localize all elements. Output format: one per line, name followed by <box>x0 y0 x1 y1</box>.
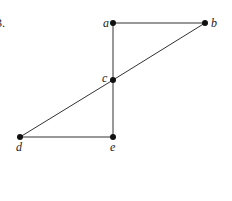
node-a <box>110 20 116 26</box>
node-label-b: b <box>211 16 217 30</box>
problem-number: 3. <box>0 16 5 30</box>
edge-b-c <box>113 23 205 80</box>
node-label-d: d <box>16 140 23 154</box>
node-label-a: a <box>103 16 109 30</box>
node-label-e: e <box>110 140 116 154</box>
node-label-c: c <box>102 71 108 85</box>
edge-c-d <box>20 80 113 137</box>
node-c <box>110 77 116 83</box>
graph-nodes: abcde <box>16 16 217 154</box>
graph-diagram: 3. abcde <box>0 0 232 201</box>
node-b <box>202 20 208 26</box>
